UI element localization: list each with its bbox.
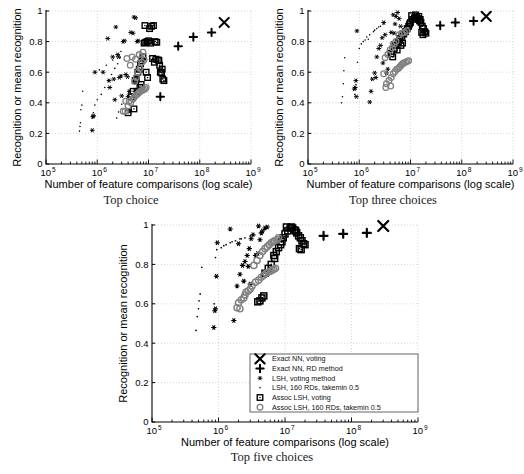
marker-lsh-rd <box>341 102 343 104</box>
marker-lsh-voting <box>372 71 377 75</box>
marker-assoc-lsh-voting-center <box>162 68 163 69</box>
x-tick-label: 109 <box>413 424 429 437</box>
legend-item-label: LSH, 160 RDs, takemin 0.5 <box>272 383 359 392</box>
marker-lsh-rd <box>358 48 360 50</box>
marker-exact-nn-rd <box>175 43 182 50</box>
marker-lsh-rd <box>376 28 378 30</box>
marker-lsh-voting <box>393 22 398 26</box>
y-tick-label: 0.4 <box>291 97 304 108</box>
marker-lsh-rd <box>79 130 81 132</box>
marker-lsh-rd <box>343 70 345 72</box>
data-points-layer <box>195 221 388 331</box>
marker-lsh-rd <box>99 69 101 71</box>
marker-exact-nn-rd <box>470 17 477 24</box>
marker-lsh-voting <box>236 241 241 246</box>
marker-exact-nn-voting <box>378 221 388 231</box>
marker-lsh-voting <box>397 17 402 21</box>
data-points-layer <box>341 10 491 104</box>
marker-lsh-rd <box>213 303 215 305</box>
y-tick-label: 1 <box>299 5 304 16</box>
subplot-caption-top-three: Top three choices <box>262 193 524 208</box>
marker-lsh-voting <box>381 61 386 65</box>
x-tick-mantissa: 10 <box>194 167 205 178</box>
marker-lsh-rd <box>119 57 121 59</box>
marker-lsh-rd <box>235 240 237 242</box>
x-axis-label: Number of feature comparisons (log scale… <box>45 178 253 190</box>
marker-lsh-voting <box>234 284 239 289</box>
marker-lsh-rd <box>342 96 344 98</box>
x-tick-label: 106 <box>92 166 108 179</box>
marker-assoc-lsh-voting-center <box>133 108 134 109</box>
marker-assoc-lsh-voting-center <box>291 226 292 227</box>
scatter-plot-top-choice: 00.20.40.60.81105106107108109Number of f… <box>0 0 262 190</box>
marker-lsh-rd <box>195 330 197 332</box>
y-tick-label: 0.6 <box>29 67 42 78</box>
legend-item[interactable]: LSH, 160 RDs, takemin 0.5 <box>259 383 359 392</box>
marker-lsh-rd <box>259 387 261 389</box>
marker-lsh-rd <box>120 51 122 53</box>
x-tick-label: 108 <box>194 166 210 179</box>
marker-exact-nn-rd <box>157 93 164 100</box>
y-tick-label: 0.2 <box>135 377 148 388</box>
marker-assoc-lsh-voting-center <box>153 25 154 26</box>
marker-lsh-voting <box>240 263 245 268</box>
marker-lsh-rd <box>80 122 82 124</box>
marker-lsh-voting <box>105 36 110 40</box>
marker-exact-nn-voting <box>220 18 229 27</box>
subplot-caption-top-choice: Top choice <box>0 193 262 208</box>
marker-lsh-voting <box>90 128 95 132</box>
marker-lsh-rd <box>112 59 114 61</box>
marker-lsh-voting <box>249 237 254 242</box>
marker-assoc-lsh-voting-center <box>300 249 301 250</box>
x-tick-label: 109 <box>508 166 524 179</box>
x-tick-exponent: 7 <box>417 166 421 173</box>
marker-lsh-rd <box>355 84 357 86</box>
marker-lsh-voting <box>113 25 118 29</box>
marker-lsh-voting <box>101 70 106 74</box>
marker-lsh-voting <box>231 318 236 323</box>
marker-lsh-voting <box>355 29 360 33</box>
marker-lsh-rd <box>196 316 198 318</box>
marker-lsh-rd <box>198 308 200 310</box>
marker-exact-nn-rd <box>190 33 197 40</box>
marker-assoc-lsh-voting-center <box>162 78 163 79</box>
subplot-top-five: 00.20.40.60.81105106107108109Number of f… <box>112 213 432 448</box>
marker-assoc-lsh-voting-center <box>257 301 258 302</box>
x-tick-exponent: 8 <box>206 166 210 173</box>
marker-lsh-rd <box>361 43 363 45</box>
x-tick-label: 106 <box>354 166 370 179</box>
series-x-bold <box>482 12 491 21</box>
marker-assoc-lsh-voting-center <box>299 248 300 249</box>
marker-assoc-lsh-voting-center <box>141 84 142 85</box>
marker-lsh-voting <box>215 240 220 245</box>
scatter-plot-top-five: 00.20.40.60.81105106107108109Number of f… <box>112 213 432 448</box>
series-plus-bold <box>437 17 478 29</box>
x-tick-mantissa: 10 <box>303 167 314 178</box>
x-tick-label: 107 <box>405 166 421 179</box>
data-points-layer <box>79 15 229 132</box>
x-tick-exponent: 9 <box>519 166 523 173</box>
x-tick-mantissa: 10 <box>456 167 467 178</box>
legend-item-label: LSH, voting method <box>272 374 335 383</box>
marker-lsh-rd <box>380 26 382 28</box>
marker-lsh-rd <box>114 68 116 70</box>
marker-lsh-rd <box>81 104 83 106</box>
x-tick-mantissa: 10 <box>405 167 416 178</box>
legend-item[interactable]: Assoc LSH, 160 RDs, takemin 0.5 <box>257 403 381 412</box>
legend-item-label: Exact NN, RD method <box>272 364 343 373</box>
marker-assoc-lsh-voting-center <box>144 25 145 26</box>
x-tick-mantissa: 10 <box>354 167 365 178</box>
y-axis-label: Recognition or mean recognition <box>273 8 285 166</box>
marker-lsh-voting <box>228 227 233 232</box>
marker-lsh-voting <box>241 279 246 284</box>
x-tick-exponent: 9 <box>424 424 428 431</box>
x-tick-exponent: 6 <box>365 166 369 173</box>
marker-lsh-voting <box>378 43 383 47</box>
marker-lsh-rd <box>366 36 368 38</box>
marker-lsh-voting <box>385 67 390 71</box>
marker-exact-nn-rd <box>363 229 371 237</box>
marker-lsh-rd <box>344 57 346 59</box>
marker-lsh-rd <box>82 91 84 93</box>
x-tick-mantissa: 10 <box>213 425 224 436</box>
marker-assoc-lsh-voting-center <box>295 230 296 231</box>
